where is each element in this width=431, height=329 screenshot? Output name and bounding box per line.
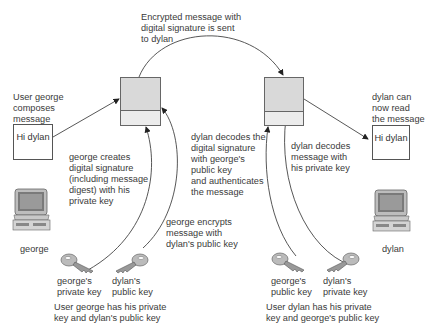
label-line: key and george's public key: [266, 313, 379, 324]
label-line: User george has his private: [54, 302, 166, 313]
george-sign-label: george creates digital signature (includ…: [69, 152, 148, 207]
label-line: composes: [13, 103, 64, 114]
label-line: with george's: [191, 154, 266, 165]
george-computer-label: george: [20, 244, 49, 255]
label-line: User dylan has his private: [266, 302, 379, 313]
dylan-computer-icon: [372, 188, 412, 233]
label-line: dylan decodes the: [191, 132, 266, 143]
label-line: digest) with his: [69, 185, 148, 196]
dylan-public-key-icon: [113, 252, 149, 274]
dylan-private-key-icon: [324, 251, 360, 273]
dylan-private-key-label: dylan's private key: [323, 276, 367, 298]
caption-line: to dylan: [141, 34, 241, 45]
george-public-key-label: george's public key: [271, 276, 312, 298]
label-line: private key: [323, 287, 367, 298]
label-line: User george: [13, 92, 64, 103]
label-line: message with: [166, 228, 238, 239]
george-encrypt-label: george encrypts message with dylan's pub…: [166, 217, 238, 250]
dylan-message-box: Hi dylan: [372, 125, 410, 160]
dylan-read-label: dylan can now read the message: [372, 92, 425, 125]
dylan-decode-label: dylan decodes message with his private k…: [291, 141, 350, 174]
label-line: public key: [271, 287, 312, 298]
label-line: george's: [57, 276, 101, 287]
george-encrypted-envelope: [120, 77, 161, 126]
label-line: george encrypts: [166, 217, 238, 228]
label-line: dylan's: [323, 276, 367, 287]
george-private-key-icon: [60, 252, 96, 274]
transmission-caption: Encrypted message with digital signature…: [141, 12, 241, 45]
label-line: the message: [191, 187, 266, 198]
george-summary: User george has his private key and dyla…: [54, 302, 166, 324]
label-line: private key: [57, 287, 101, 298]
label-line: private key: [69, 196, 148, 207]
label-line: dylan's public key: [166, 239, 238, 250]
dylan-public-key-label: dylan's public key: [112, 276, 153, 298]
label-line: public key: [112, 287, 153, 298]
label-line: george's: [271, 276, 312, 287]
george-public-key-icon: [271, 251, 307, 273]
label-line: and authenticates: [191, 176, 266, 187]
message-text: Hi dylan: [373, 133, 409, 143]
message-text: Hi dylan: [14, 132, 52, 142]
envelope-signature-section: [121, 78, 160, 111]
caption-line: Encrypted message with: [141, 12, 241, 23]
label-line: now read: [372, 103, 425, 114]
dylan-received-envelope: [264, 77, 304, 126]
label-line: dylan decodes: [291, 141, 350, 152]
label-line: dylan can: [372, 92, 425, 103]
label-line: dylan's: [112, 276, 153, 287]
label-line: public key: [191, 165, 266, 176]
caption-line: digital signature is sent: [141, 23, 241, 34]
label-line: george creates: [69, 152, 148, 163]
george-message-box: Hi dylan: [13, 124, 53, 160]
label-line: digital signature: [69, 163, 148, 174]
label-line: (including message: [69, 174, 148, 185]
envelope-signature-section: [265, 78, 303, 112]
label-line: key and dylan's public key: [54, 313, 166, 324]
george-compose-label: User george composes message: [13, 92, 64, 125]
dylan-verify-label: dylan decodes the digital signature with…: [191, 132, 266, 198]
george-computer-icon: [12, 187, 52, 232]
label-line: digital signature: [191, 143, 266, 154]
george-private-key-label: george's private key: [57, 276, 101, 298]
dylan-summary: User dylan has his private key and georg…: [266, 302, 379, 324]
label-line: the message: [372, 114, 425, 125]
dylan-computer-label: dylan: [382, 244, 404, 255]
label-line: message with: [291, 152, 350, 163]
label-line: his private key: [291, 163, 350, 174]
